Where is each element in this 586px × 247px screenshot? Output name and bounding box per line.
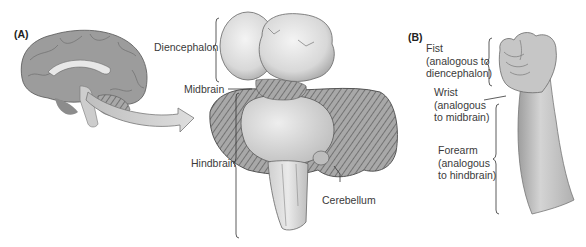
hindbrain-label: Hindbrain [191, 157, 236, 170]
panel-b-label: (B) [408, 31, 423, 43]
cerebellum-label: Cerebellum [322, 194, 376, 207]
forearm-analogy-line1: (analogous [438, 157, 496, 170]
fist-analogy-label: Fist (analogous to diencephalon) [426, 42, 492, 80]
forearm-part: Forearm [438, 144, 496, 157]
fist-analogy-line1: (analogous to [426, 55, 492, 68]
wrist-analogy-line2: to midbrain) [434, 111, 489, 124]
fist-analogy-line2: diencephalon) [426, 67, 492, 80]
figure-artwork [0, 0, 586, 247]
forearm-analogy-label: Forearm (analogous to hindbrain) [438, 144, 496, 182]
panel-a-label: (A) [14, 28, 29, 40]
fist-arm-illustration [499, 33, 574, 214]
wrist-analogy-line1: (analogous [434, 99, 489, 112]
diencephalon-label: Diencephalon [154, 41, 218, 54]
wrist-analogy-label: Wrist (analogous to midbrain) [434, 86, 489, 124]
forearm-analogy-line2: to hindbrain) [438, 169, 496, 182]
wrist-part: Wrist [434, 86, 489, 99]
midbrain-label: Midbrain [184, 83, 224, 96]
fist-part: Fist [426, 42, 492, 55]
